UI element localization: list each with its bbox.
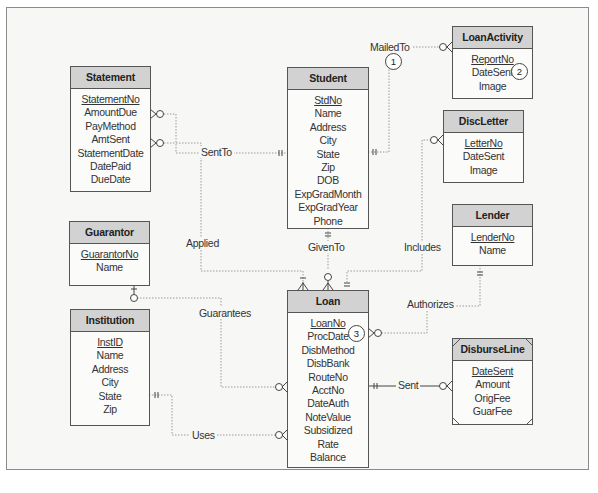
attribute: StatementDate (71, 147, 150, 160)
attribute: Subsidized (288, 424, 368, 437)
attribute: Rate (288, 438, 368, 451)
rel-label-authorizes: Authorizes (405, 298, 456, 310)
rel-label-guarantees: Guarantees (197, 307, 253, 319)
entity-student[interactable]: Student StdNo Name Address City State Zi… (287, 67, 369, 229)
attribute: Name (71, 349, 149, 362)
rel-label-mailedto: MailedTo (368, 41, 412, 53)
attribute: DatePaid (71, 160, 150, 173)
attribute: AmountDue (71, 106, 150, 119)
attribute: DisbMethod (288, 344, 368, 357)
attribute-primary-key: StdNo (288, 94, 368, 107)
attribute: RouteNo (288, 371, 368, 384)
attribute-primary-key: StatementNo (71, 93, 150, 106)
entity-guarantor[interactable]: Guarantor GuarantorNo Name (69, 221, 150, 286)
attribute: DateSent (444, 150, 523, 163)
rel-label-sentto: SentTo (199, 146, 234, 158)
attribute: Address (288, 121, 368, 134)
attribute-primary-key: GuarantorNo (70, 248, 149, 261)
rel-label-sent: Sent (396, 379, 420, 391)
attribute: ExpGradYear (288, 201, 368, 214)
rel-label-uses: Uses (190, 429, 217, 441)
entity-lender[interactable]: Lender LenderNo Name (452, 204, 533, 266)
rel-label-givento: GivenTo (306, 241, 346, 253)
entity-disburseline[interactable]: DisburseLine DateSent Amount OrigFee Gua… (452, 338, 533, 425)
entity-title: Loan (288, 291, 368, 313)
attribute: Image (444, 164, 523, 177)
attribute: Name (453, 244, 532, 257)
attribute: PayMethod (71, 120, 150, 133)
entity-title: Guarantor (70, 222, 149, 244)
entity-title: LoanActivity (453, 27, 532, 49)
entity-discletter[interactable]: DiscLetter LetterNo DateSent Image (443, 110, 524, 183)
attribute: Image (453, 80, 532, 93)
entity-title: Lender (453, 205, 532, 227)
entity-title: Institution (71, 310, 149, 332)
rel-label-applied: Applied (184, 237, 221, 249)
attribute: Name (70, 261, 149, 274)
attribute: State (71, 390, 149, 403)
callout-1: 1 (385, 53, 402, 70)
entity-title: DiscLetter (444, 111, 523, 133)
attribute: Name (288, 107, 368, 120)
entity-institution[interactable]: Institution InstID Name Address City Sta… (70, 309, 150, 426)
attribute: DueDate (71, 173, 150, 186)
attribute-primary-key: LenderNo (453, 231, 532, 244)
attribute: Address (71, 363, 149, 376)
callout-2: 2 (511, 63, 528, 80)
attribute: NoteValue (288, 411, 368, 424)
rel-label-includes: Includes (402, 241, 443, 253)
weak-entity-corners-icon (453, 339, 534, 426)
attribute: Zip (288, 161, 368, 174)
attribute: City (288, 134, 368, 147)
callout-3: 3 (348, 325, 365, 342)
attribute: Zip (71, 403, 149, 416)
attribute-primary-key: LetterNo (444, 137, 523, 150)
attribute: ExpGradMonth (288, 188, 368, 201)
attribute: AcctNo (288, 384, 368, 397)
attribute: City (71, 376, 149, 389)
entity-loan[interactable]: Loan LoanNo ProcDate DisbMethod DisbBank… (287, 290, 369, 468)
attribute: DisbBank (288, 357, 368, 370)
entity-title: Student (288, 68, 368, 90)
attribute: State (288, 148, 368, 161)
attribute-primary-key: InstID (71, 336, 149, 349)
attribute: DateAuth (288, 397, 368, 410)
attribute: Phone (288, 215, 368, 228)
entity-statement[interactable]: Statement StatementNo AmountDue PayMetho… (70, 66, 151, 192)
attribute: AmtSent (71, 133, 150, 146)
attribute: DOB (288, 174, 368, 187)
attribute: Balance (288, 451, 368, 464)
entity-title: Statement (71, 67, 150, 89)
